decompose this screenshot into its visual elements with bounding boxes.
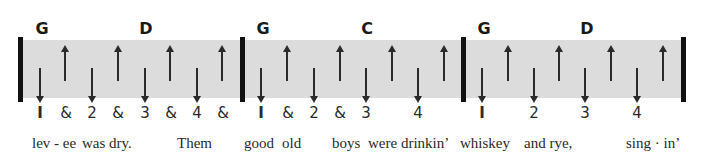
beat-count: 3	[361, 104, 371, 122]
down-strum-arrow-icon	[196, 68, 198, 98]
up-strum-arrow-icon	[443, 50, 445, 81]
up-strum-arrow-icon	[169, 50, 171, 81]
chord-label: G	[256, 19, 269, 38]
barline	[461, 37, 466, 102]
up-strum-arrow-icon	[662, 50, 664, 81]
beat-count: 4	[413, 104, 423, 122]
beat-count: 3	[580, 104, 590, 122]
lyric-text: was dry.	[82, 135, 132, 152]
beat-count: I	[479, 104, 485, 122]
beat-count: &	[112, 104, 124, 122]
down-strum-arrow-icon	[144, 68, 146, 98]
beat-count: 2	[87, 104, 97, 122]
beat-count: &	[334, 104, 346, 122]
down-strum-arrow-icon	[533, 68, 535, 98]
beat-count: 3	[140, 104, 150, 122]
down-strum-arrow-icon	[481, 68, 483, 98]
beat-count: &	[60, 104, 72, 122]
down-strum-arrow-icon	[636, 68, 638, 98]
up-strum-arrow-icon	[558, 50, 560, 81]
down-strum-arrow-icon	[39, 68, 41, 98]
barline	[681, 37, 686, 102]
chord-label: C	[361, 19, 373, 38]
up-strum-arrow-icon	[64, 50, 66, 81]
up-strum-arrow-icon	[286, 50, 288, 81]
up-strum-arrow-icon	[221, 50, 223, 81]
lyric-text: Them	[177, 135, 212, 152]
up-strum-arrow-icon	[117, 50, 119, 81]
beat-count: 2	[529, 104, 539, 122]
beat-count: &	[165, 104, 177, 122]
down-strum-arrow-icon	[584, 68, 586, 98]
up-strum-arrow-icon	[391, 50, 393, 81]
lyric-text: sing · in’	[626, 135, 680, 152]
strum-pattern-notation: GDGCGD I&2&3&4&I&2&34I234 lev - eewas dr…	[0, 0, 711, 158]
lyric-text: good	[244, 135, 274, 152]
beat-count: 4	[632, 104, 642, 122]
up-strum-arrow-icon	[339, 50, 341, 81]
up-strum-arrow-icon	[507, 50, 509, 81]
beat-count: I	[37, 104, 43, 122]
barline	[18, 37, 23, 102]
lyric-text: were drinkin’	[368, 135, 449, 152]
lyric-text: and rye,	[524, 135, 572, 152]
chord-label: D	[139, 19, 152, 38]
beat-count: &	[217, 104, 229, 122]
lyric-text: lev - ee	[32, 135, 76, 152]
lyric-text: boys	[332, 135, 360, 152]
down-strum-arrow-icon	[417, 68, 419, 98]
down-strum-arrow-icon	[91, 68, 93, 98]
beat-count: 4	[192, 104, 202, 122]
beat-count: 2	[309, 104, 319, 122]
chord-label: D	[580, 19, 593, 38]
beat-count: I	[258, 104, 264, 122]
lyric-text: whiskey	[460, 135, 510, 152]
beat-count: &	[282, 104, 294, 122]
down-strum-arrow-icon	[365, 68, 367, 98]
barline	[240, 37, 245, 102]
lyric-text: old	[282, 135, 301, 152]
chord-label: G	[477, 19, 490, 38]
up-strum-arrow-icon	[610, 50, 612, 81]
chord-label: G	[35, 19, 48, 38]
down-strum-arrow-icon	[260, 68, 262, 98]
down-strum-arrow-icon	[313, 68, 315, 98]
